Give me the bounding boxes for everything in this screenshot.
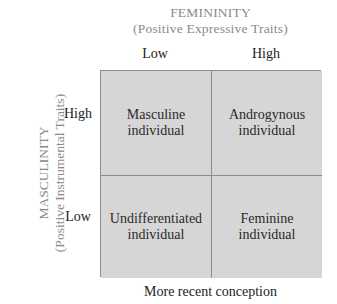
cell-label: individual [229,123,305,139]
cell-label: Feminine [239,211,296,227]
gender-role-grid: Masculineindividual Androgynousindividua… [100,70,321,277]
column-label-low: Low [100,46,210,62]
cell-label: individual [110,227,202,243]
row-label-low: Low [60,209,96,225]
cell-masculine: Masculineindividual [101,71,211,175]
masculinity-axis-title: MASCULINITY (Positive Instrumental Trait… [36,63,68,283]
cell-label: Masculine [127,107,185,123]
cell-undifferentiated: Undifferentiatedindividual [101,175,211,278]
femininity-axis-title: FEMININITY (Positive Expressive Traits) [100,5,321,37]
cell-label: Undifferentiated [110,211,202,227]
cell-androgynous: Androgynousindividual [211,71,322,175]
column-label-high: High [211,46,321,62]
caption: More recent conception [100,284,321,300]
cell-label: individual [239,227,296,243]
row-label-high: High [60,106,96,122]
masculinity-title: MASCULINITY [36,63,52,283]
masculinity-subtitle: (Positive Instrumental Traits) [52,63,68,283]
cell-label: individual [127,123,185,139]
cell-feminine: Feminineindividual [211,175,322,278]
cell-label: Androgynous [229,107,305,123]
femininity-subtitle: (Positive Expressive Traits) [100,21,321,37]
femininity-title: FEMININITY [100,5,321,21]
